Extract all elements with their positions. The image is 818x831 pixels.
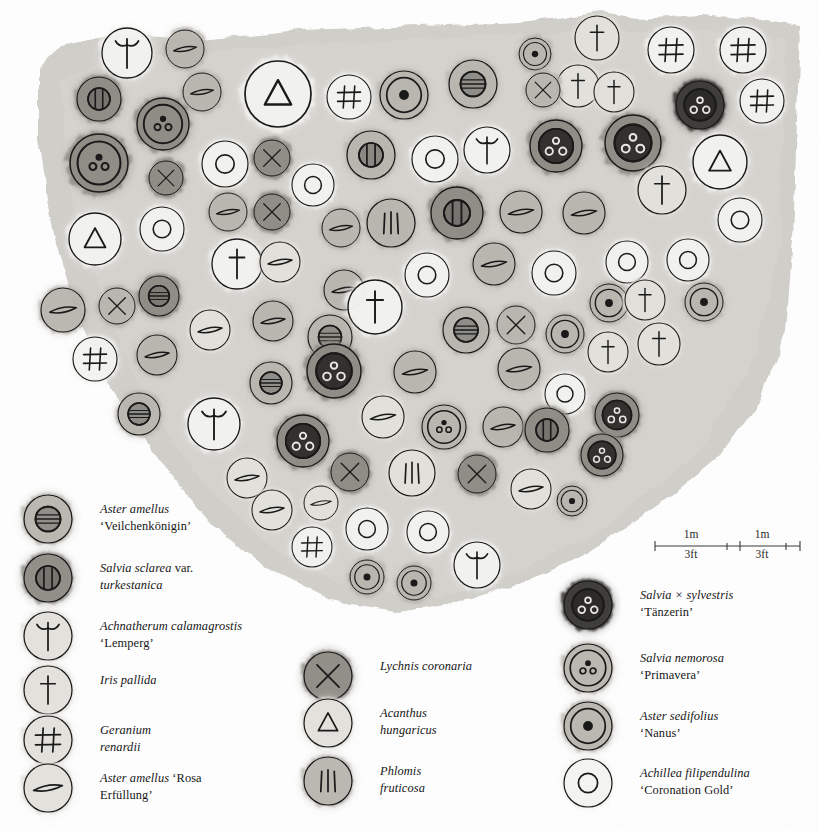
scale-imperial-2: 3ft	[728, 548, 796, 560]
legend-text-run: hungaricus	[380, 723, 437, 737]
legend-text-line: fruticosa	[380, 780, 425, 797]
legend-text-line: Achillea filipendulina	[640, 765, 750, 782]
legend-entry-label: Acanthushungaricus	[380, 705, 437, 738]
legend-text-line: Salvia sclarea var.	[100, 560, 193, 577]
legend-text-run: renardii	[100, 740, 141, 754]
legend-text-line: Lychnis coronaria	[380, 658, 472, 675]
legend-entry-label: Iris pallida	[100, 672, 157, 689]
legend-text-line: ‘Primavera’	[640, 667, 724, 684]
legend-entry-label: Salvia sclarea var.turkestanica	[100, 560, 193, 593]
legend-text-line: Iris pallida	[100, 672, 157, 689]
legend-text-run: Iris pallida	[100, 673, 157, 687]
legend-text-run: fruticosa	[380, 781, 425, 795]
scale-imperial-1: 3ft	[657, 548, 725, 560]
legend-text-run: ‘Coronation Gold’	[640, 783, 734, 797]
legend-text-line: Salvia × sylvestris	[640, 587, 734, 604]
legend-entry-label: Geraniumrenardii	[100, 722, 151, 755]
legend-text-run: ‘Rosa	[172, 771, 201, 785]
legend-text-run: Salvia nemorosa	[640, 651, 724, 665]
scale-metric-2: 1m	[728, 528, 796, 540]
legend-text-line: ‘Veilchenkönigin’	[100, 518, 191, 535]
legend-text-run: Acanthus	[380, 706, 427, 720]
legend-entry-label: Aster amellus ‘RosaErfüllung’	[100, 770, 202, 803]
legend-entry-label: Achnatherum calamagrostis‘Lemperg’	[100, 618, 242, 651]
legend-text-run: ‘Nanus’	[640, 726, 681, 740]
legend-text-run: Lychnis coronaria	[380, 659, 472, 673]
legend-entry-label: Salvia nemorosa‘Primavera’	[640, 650, 724, 683]
legend-text-line: Aster amellus ‘Rosa	[100, 770, 202, 787]
legend-entry-label: Lychnis coronaria	[380, 658, 472, 675]
legend-text-run: Geranium	[100, 723, 151, 737]
legend-text-line: Achnatherum calamagrostis	[100, 618, 242, 635]
legend-text-line: hungaricus	[380, 722, 437, 739]
legend-text-run: ‘Primavera’	[640, 668, 700, 682]
legend-text-run: turkestanica	[100, 578, 162, 592]
legend-text-run: var.	[175, 561, 194, 575]
legend-text-run: ‘Veilchenkönigin’	[100, 519, 191, 533]
legend-text-line: Salvia nemorosa	[640, 650, 724, 667]
legend-text-run: Salvia × sylvestris	[640, 588, 734, 602]
legend-entry-label: Aster sedifolius‘Nanus’	[640, 708, 718, 741]
legend-text-run: Achillea filipendulina	[640, 766, 750, 780]
legend-entry-label: Aster amellus‘Veilchenkönigin’	[100, 501, 191, 534]
legend-entry-label: Phlomisfruticosa	[380, 763, 425, 796]
legend-entry-label: Achillea filipendulina‘Coronation Gold’	[640, 765, 750, 798]
legend-text-line: ‘Tänzerin’	[640, 604, 734, 621]
legend-text-line: Geranium	[100, 722, 151, 739]
legend-text-line: turkestanica	[100, 577, 193, 594]
legend-text-line: ‘Nanus’	[640, 725, 718, 742]
legend-text-run: Achnatherum calamagrostis	[100, 619, 242, 633]
legend-text-line: ‘Lemperg’	[100, 635, 242, 652]
legend-text-run: Aster amellus	[100, 502, 169, 516]
legend-text-line: renardii	[100, 739, 151, 756]
legend-text-run: Phlomis	[380, 764, 421, 778]
legend-text-run: ‘Tänzerin’	[640, 605, 693, 619]
legend-text-line: Aster sedifolius	[640, 708, 718, 725]
legend-text-run: Erfüllung’	[100, 788, 153, 802]
legend-text-line: Phlomis	[380, 763, 425, 780]
legend-text-run: Salvia sclarea	[100, 561, 175, 575]
legend-entry-label: Salvia × sylvestris‘Tänzerin’	[640, 587, 734, 620]
legend-text-line: Acanthus	[380, 705, 437, 722]
legend-text-run: ‘Lemperg’	[100, 636, 154, 650]
legend-text-run: Aster amellus	[100, 771, 172, 785]
scale-metric-1: 1m	[657, 528, 725, 540]
legend-text-line: ‘Coronation Gold’	[640, 782, 750, 799]
garden-plan-page: 1m 3ft 1m 3ft Aster amellus‘Veilchenköni…	[0, 0, 818, 831]
legend-text-line: Aster amellus	[100, 501, 191, 518]
legend-text-run: Aster sedifolius	[640, 709, 718, 723]
legend-text-line: Erfüllung’	[100, 787, 202, 804]
